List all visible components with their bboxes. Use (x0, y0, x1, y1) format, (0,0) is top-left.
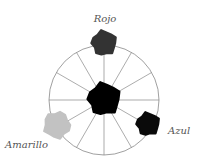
amarillo-label: Amarillo (4, 139, 48, 150)
rojo-label: Rojo (93, 13, 117, 24)
center-mix-blob (87, 82, 119, 114)
color-blobs (44, 30, 159, 139)
color-labels: RojoAzulAmarillo (4, 13, 190, 150)
color-wheel-diagram: RojoAzulAmarillo (0, 0, 200, 165)
rojo-blob (91, 30, 116, 54)
azul-blob (136, 112, 159, 135)
azul-label: Azul (167, 125, 190, 136)
amarillo-blob (44, 112, 70, 139)
